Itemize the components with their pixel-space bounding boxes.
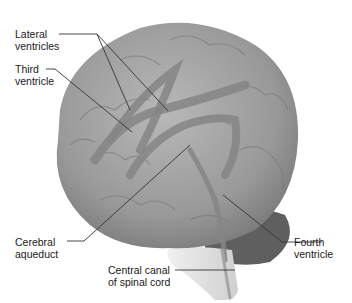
label-lateral-ventricles: Lateral ventricles bbox=[15, 28, 59, 52]
label-cerebral-aqueduct: Cerebral aqueduct bbox=[15, 236, 58, 260]
label-third-ventricle: Third ventricle bbox=[15, 63, 54, 87]
cerebrum bbox=[57, 23, 298, 248]
label-fourth-ventricle: Fourth ventricle bbox=[294, 236, 333, 260]
brain-ventricles-diagram: Lateral ventricles Third ventricle Cereb… bbox=[0, 0, 352, 303]
label-central-canal: Central canal of spinal cord bbox=[108, 264, 170, 288]
